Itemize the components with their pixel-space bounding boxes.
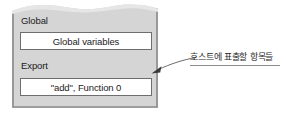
section-heading-export: Export xyxy=(21,60,48,71)
memory-slot-export-label: "add", Function 0 xyxy=(51,82,122,93)
memory-slot-global-label: Global variables xyxy=(53,36,120,47)
diagram-stage: Global Global variables Export "add", Fu… xyxy=(0,0,286,117)
memory-slot-export[interactable]: "add", Function 0 xyxy=(20,78,152,96)
section-heading-global: Global xyxy=(21,15,48,26)
callout-annotation-text: 호스트에 표출할 항목들 xyxy=(190,51,273,63)
memory-slot-global[interactable]: Global variables xyxy=(20,32,152,50)
